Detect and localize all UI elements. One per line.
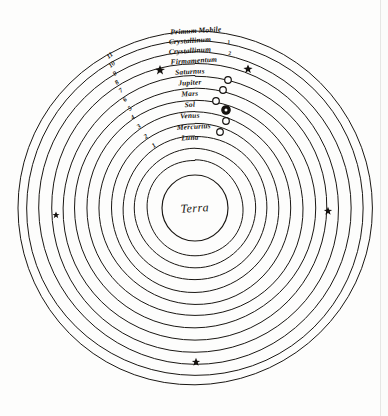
terra-label: Terra [180, 200, 209, 215]
sphere-number-3: 3 [134, 122, 142, 131]
planet-marker-venus-core [225, 109, 228, 112]
label-mercurius: Mercurius [176, 121, 211, 132]
sphere-labels-group: Primum Mobile Crystallinum 1 Crystallinu… [168, 24, 231, 142]
planet-marker-luna [217, 129, 224, 136]
planet-marker-sol [213, 98, 220, 105]
planet-marker-mercurius [223, 118, 230, 125]
label-luna: Luna [180, 133, 199, 143]
planet-marker-jupiter [225, 77, 232, 84]
cosmological-diagram: Terra Primum Mobile Crystallinum 1 Cryst… [0, 0, 388, 416]
planet-markers-group [213, 77, 232, 136]
label-crystallinum-1-number: 1 [227, 39, 230, 45]
label-jupiter: Jupiter [177, 77, 202, 87]
sphere-number-7: 7 [117, 86, 124, 94]
label-mars: Mars [180, 89, 198, 99]
label-crystallinum-2-number: 2 [227, 50, 231, 56]
planet-marker-mars [220, 87, 227, 94]
star-east-icon [324, 207, 332, 215]
diagram-page: Terra Primum Mobile Crystallinum 1 Cryst… [0, 0, 388, 416]
label-venus: Venus [180, 110, 200, 120]
sphere-number-2: 2 [141, 132, 149, 141]
label-saturnus: Saturnus [175, 66, 205, 77]
label-sol: Sol [184, 100, 196, 110]
star-west-icon [52, 211, 59, 218]
sphere-number-5: 5 [126, 104, 133, 112]
star-saturnus-left-icon [155, 65, 165, 75]
sphere-numbers-group: 1234567891011 [105, 50, 157, 148]
